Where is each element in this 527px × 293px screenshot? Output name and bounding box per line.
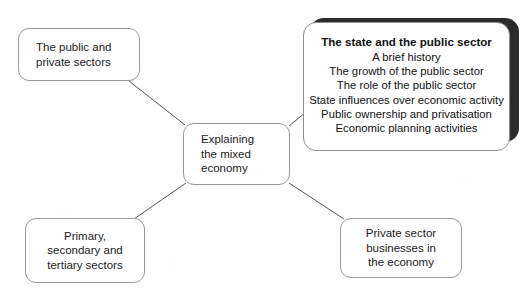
node-line: Explaining bbox=[184, 132, 254, 147]
node-the-state-and-the-public-sector[interactable]: The state and the public sector A brief … bbox=[303, 22, 510, 151]
node-line: secondary and bbox=[47, 243, 122, 258]
node-line: Private sector bbox=[366, 226, 436, 241]
node-line: tertiary sectors bbox=[47, 258, 122, 273]
node-line: businesses in bbox=[366, 241, 436, 256]
node-the-state-and-the-public-sector-wrapper: The state and the public sector A brief … bbox=[303, 16, 519, 151]
node-the-public-and-private-sectors[interactable]: The public and private sectors bbox=[18, 28, 140, 81]
node-line: The growth of the public sector bbox=[329, 64, 483, 78]
connector-centre-to-private-business bbox=[289, 183, 344, 219]
node-private-sector-businesses-in-the-economy[interactable]: Private sector businesses in the economy bbox=[340, 218, 462, 278]
node-primary-secondary-tertiary-sectors[interactable]: Primary, secondary and tertiary sectors bbox=[25, 218, 145, 283]
node-line: the mixed bbox=[184, 147, 251, 162]
node-line: Primary, bbox=[64, 229, 106, 244]
node-line: the economy bbox=[368, 255, 434, 270]
node-line: State influences over economic activity bbox=[309, 93, 504, 107]
node-heading: The state and the public sector bbox=[321, 35, 492, 49]
node-line: The public and bbox=[19, 40, 111, 55]
diagram-canvas: The public and private sectors Explainin… bbox=[0, 0, 527, 293]
node-explaining-the-mixed-economy[interactable]: Explaining the mixed economy bbox=[183, 123, 290, 185]
node-line: Public ownership and privatisation bbox=[321, 107, 492, 121]
node-line: A brief history bbox=[372, 50, 440, 64]
node-line: economy bbox=[184, 161, 248, 176]
node-line: Economic planning activities bbox=[336, 121, 478, 135]
connector-centre-to-public-private bbox=[129, 81, 185, 125]
node-line: The role of the public sector bbox=[337, 78, 476, 92]
node-line: private sectors bbox=[19, 55, 111, 70]
connector-centre-to-primary-sectors bbox=[134, 183, 186, 219]
